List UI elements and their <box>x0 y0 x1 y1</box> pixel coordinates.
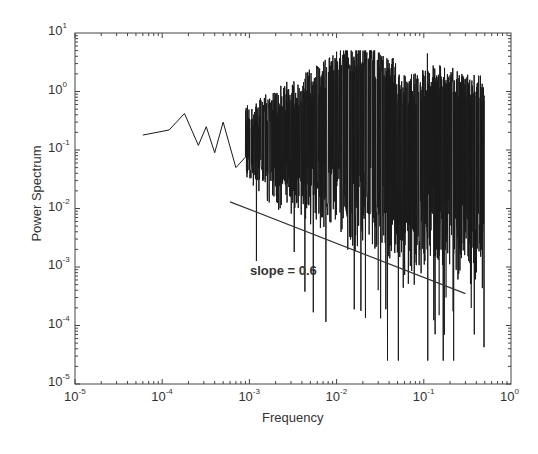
y-tick-label: 100 <box>48 82 67 97</box>
power-spectrum-chart <box>0 0 538 454</box>
x-tick-label: 10-1 <box>413 389 435 404</box>
slope-annotation: slope = 0.6 <box>250 263 317 278</box>
x-tick-label: 100 <box>500 389 519 404</box>
x-tick-label: 10-5 <box>64 389 86 404</box>
y-tick-label: 10-4 <box>48 316 70 331</box>
y-tick-label: 10-1 <box>48 140 70 155</box>
y-tick-label: 101 <box>48 23 67 38</box>
y-axis-label: Power Spectrum <box>29 145 44 241</box>
spectrum-trace <box>143 51 485 361</box>
spectrum-path <box>143 51 485 361</box>
y-tick-label: 10-5 <box>48 374 70 389</box>
x-axis-label: Frequency <box>262 410 323 425</box>
x-tick-label: 10-2 <box>326 389 348 404</box>
y-tick-label: 10-2 <box>48 199 70 214</box>
x-tick-label: 10-3 <box>238 389 260 404</box>
y-tick-label: 10-3 <box>48 257 70 272</box>
x-tick-label: 10-4 <box>151 389 173 404</box>
